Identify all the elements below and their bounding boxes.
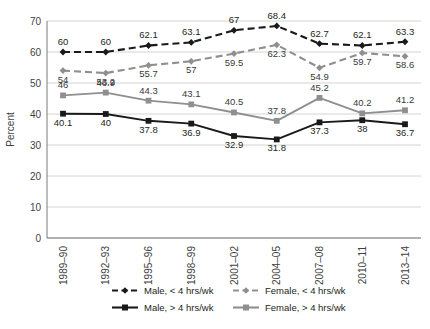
legend-label: Male, > 4 hrs/wk: [144, 302, 214, 313]
data-label: 37.8: [268, 105, 287, 116]
data-label: 43.1: [182, 88, 201, 99]
x-tick-label: 2007–08: [314, 246, 325, 285]
data-label: 55.7: [139, 68, 158, 79]
data-label: 40: [100, 117, 111, 128]
y-tick-label: 70: [30, 16, 42, 27]
x-tick-label: 2013–14: [400, 246, 411, 285]
data-point-marker: [145, 42, 152, 49]
data-label: 46.9: [97, 77, 116, 88]
data-label: 40.5: [225, 96, 244, 107]
data-point-marker: [231, 110, 237, 116]
data-label: 37.8: [139, 124, 158, 135]
legend-item: Male, > 4 hrs/wk: [112, 302, 214, 313]
data-point-marker: [60, 49, 67, 56]
legend-label: Female, < 4 hrs/wk: [265, 285, 346, 296]
data-point-marker: [103, 90, 109, 96]
data-label: 45.2: [310, 82, 329, 93]
x-tick-label: 2010–11: [357, 246, 368, 285]
x-tick-label: 1992–93: [100, 246, 111, 285]
data-label: 63.3: [396, 26, 415, 37]
x-tick-label: 2004–05: [271, 246, 282, 285]
chart-canvas: 010203040506070Percent1989–901992–931995…: [0, 0, 430, 329]
x-tick-label: 1998–99: [186, 246, 197, 285]
data-label: 40.2: [353, 97, 372, 108]
data-point-marker: [402, 107, 408, 113]
data-label: 41.2: [396, 94, 415, 105]
data-point-marker: [274, 118, 280, 124]
data-label: 38: [357, 123, 368, 134]
data-point-marker: [316, 40, 323, 47]
x-tick-label: 1989–90: [58, 246, 69, 285]
data-label: 32.9: [225, 139, 244, 150]
data-label: 62.3: [268, 48, 287, 59]
data-point-marker: [188, 39, 195, 46]
legend-item: Male, < 4 hrs/wk: [112, 285, 214, 296]
data-label: 46: [58, 79, 69, 90]
data-label: 68.4: [268, 10, 287, 21]
data-point-marker: [188, 101, 194, 107]
data-label: 40.1: [54, 117, 73, 128]
y-tick-label: 20: [30, 171, 42, 182]
data-point-marker: [102, 49, 109, 56]
data-label: 58.6: [396, 59, 415, 70]
data-point-marker: [317, 95, 323, 101]
data-point-marker: [402, 38, 409, 45]
legend-marker-square-icon: [122, 305, 128, 311]
y-tick-label: 0: [35, 233, 41, 244]
legend-label: Female, > 4 hrs/wk: [265, 302, 346, 313]
data-label: 57: [186, 64, 197, 75]
legend-item: Female, < 4 hrs/wk: [233, 285, 346, 296]
legend-item: Female, > 4 hrs/wk: [233, 302, 346, 313]
y-tick-label: 50: [30, 78, 42, 89]
x-tick-label: 2001–02: [229, 246, 240, 285]
data-label: 62.7: [310, 28, 329, 39]
data-label: 60: [58, 36, 69, 47]
data-label: 36.7: [396, 127, 415, 138]
data-point-marker: [359, 110, 365, 116]
data-label: 59.7: [353, 56, 372, 67]
y-tick-label: 60: [30, 47, 42, 58]
y-tick-label: 40: [30, 109, 42, 120]
line-chart: 010203040506070Percent1989–901992–931995…: [0, 0, 430, 329]
data-point-marker: [273, 23, 280, 30]
data-label: 59.5: [225, 57, 244, 68]
data-label: 67: [229, 14, 240, 25]
data-point-marker: [359, 42, 366, 49]
data-label: 54.9: [310, 71, 329, 82]
data-label: 44.3: [139, 85, 158, 96]
data-label: 60: [100, 36, 111, 47]
y-tick-label: 30: [30, 140, 42, 151]
data-label: 31.8: [268, 142, 287, 153]
data-label: 62.1: [139, 29, 158, 40]
data-point-marker: [231, 27, 238, 34]
legend-marker-diamond-icon: [122, 287, 128, 293]
data-label: 36.9: [182, 127, 201, 138]
y-tick-label: 10: [30, 202, 42, 213]
legend-marker-square-icon: [243, 305, 249, 311]
data-point-marker: [60, 93, 66, 99]
data-label: 37.3: [310, 125, 329, 136]
legend-marker-diamond-icon: [243, 287, 249, 293]
x-tick-label: 1995–96: [143, 246, 154, 285]
y-axis-title: Percent: [5, 112, 16, 147]
data-label: 62.1: [353, 29, 372, 40]
legend-label: Male, < 4 hrs/wk: [144, 285, 214, 296]
data-label: 63.1: [182, 26, 201, 37]
data-point-marker: [146, 98, 152, 104]
